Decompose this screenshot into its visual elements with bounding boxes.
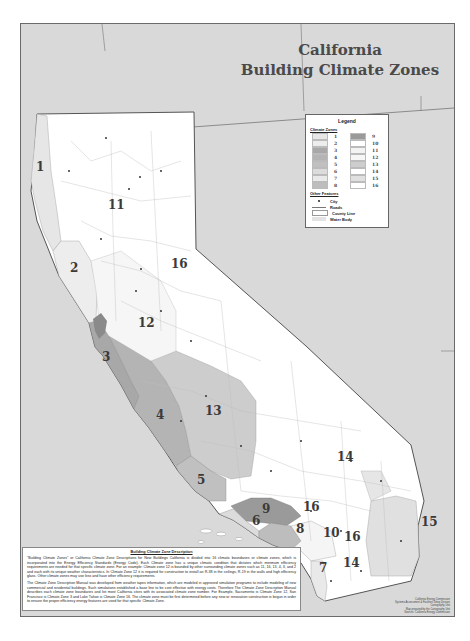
zone-label-16: 16 xyxy=(171,257,188,271)
road-line-icon xyxy=(312,207,326,208)
county-line-icon xyxy=(312,210,328,216)
zone-swatch-icon xyxy=(350,182,366,189)
zone-label-4: 4 xyxy=(156,408,164,422)
other-features-header: Other Features xyxy=(310,191,388,196)
zone-label-3: 3 xyxy=(102,350,110,364)
legend-water-body: Water Body xyxy=(312,216,382,222)
legend-zone-9: 9 xyxy=(350,134,382,139)
description-paragraph-1: "Building Climate Zones" or California C… xyxy=(27,556,296,578)
zone-label-16: 16 xyxy=(344,530,361,544)
title-line-2: Building Climate Zones xyxy=(220,60,460,80)
zone-label-6: 6 xyxy=(252,514,260,528)
zone-swatch-icon xyxy=(312,133,328,140)
zone-label-13: 13 xyxy=(205,404,222,418)
description-title: Building Climate Zone Description xyxy=(27,550,296,554)
zone-label-11: 11 xyxy=(108,198,125,212)
legend-zone-14: 14 xyxy=(350,169,382,174)
zone-swatch-icon xyxy=(312,154,328,161)
zone-label-16: 16 xyxy=(303,500,320,514)
climate-zone-description-box: Building Climate Zone Description "Build… xyxy=(22,547,301,611)
zone-swatch-icon xyxy=(350,154,366,161)
zone-swatch-icon xyxy=(350,140,366,147)
legend-zone-11: 11 xyxy=(350,148,382,153)
zone-label-12: 12 xyxy=(138,316,155,330)
legend-zone-13: 13 xyxy=(350,162,382,167)
legend-zone-15: 15 xyxy=(350,176,382,181)
climate-zones-header: Climate Zones xyxy=(310,127,388,132)
map-title: California Building Climate Zones xyxy=(220,40,460,80)
legend-zone-5: 5 xyxy=(312,162,344,167)
legend-zone-1: 1 xyxy=(312,134,344,139)
zone-label-2: 2 xyxy=(70,261,78,275)
zone-label-14: 14 xyxy=(343,556,360,570)
zone-label-8: 8 xyxy=(296,522,304,536)
zone-swatch-icon xyxy=(350,168,366,175)
zone-swatch-icon xyxy=(312,175,328,182)
water-body-icon xyxy=(312,217,326,221)
zone-label-5: 5 xyxy=(197,473,205,487)
zone-swatch-icon xyxy=(350,147,366,154)
zone-labels-layer: 11121612313451491668101615714 xyxy=(21,24,454,616)
city-dot-icon xyxy=(312,199,326,203)
other-features-list: City Roads County Line Water Body xyxy=(312,198,382,222)
legend-zone-grid: 19210311412513614715816 xyxy=(312,134,382,188)
legend-zone-6: 6 xyxy=(312,169,344,174)
zone-swatch-icon xyxy=(350,175,366,182)
zone-label-14: 14 xyxy=(337,450,354,464)
legend-zone-10: 10 xyxy=(350,141,382,146)
title-line-1: California xyxy=(220,40,460,60)
zone-label-10: 10 xyxy=(323,526,340,540)
zone-swatch-icon xyxy=(350,133,366,140)
legend-title: Legend xyxy=(306,118,388,124)
legend-zone-12: 12 xyxy=(350,155,382,160)
map-frame: 11121612313451491668101615714 xyxy=(20,23,455,617)
description-paragraph-2: The Climate Zone Description Manual was … xyxy=(27,581,296,603)
legend-zone-16: 16 xyxy=(350,183,382,188)
legend-zone-7: 7 xyxy=(312,176,344,181)
zone-swatch-icon xyxy=(312,168,328,175)
map-credits: California Energy Commission Systems Ass… xyxy=(392,598,450,614)
zone-swatch-icon xyxy=(312,147,328,154)
zone-label-7: 7 xyxy=(319,561,327,575)
zone-swatch-icon xyxy=(312,182,328,189)
legend-zone-4: 4 xyxy=(312,155,344,160)
zone-swatch-icon xyxy=(312,140,328,147)
legend-zone-8: 8 xyxy=(312,183,344,188)
legend-zone-2: 2 xyxy=(312,141,344,146)
zone-label-9: 9 xyxy=(262,502,270,516)
zone-swatch-icon xyxy=(312,161,328,168)
zone-label-1: 1 xyxy=(36,160,44,174)
zone-swatch-icon xyxy=(350,161,366,168)
legend-box: Legend Climate Zones 1921031141251361471… xyxy=(305,114,389,228)
zone-label-15: 15 xyxy=(421,515,438,529)
legend-zone-3: 3 xyxy=(312,148,344,153)
